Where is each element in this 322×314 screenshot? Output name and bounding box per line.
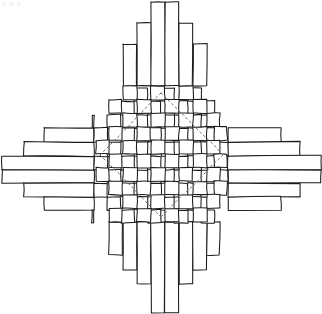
weave-cell-vertical-over: [151, 113, 165, 127]
weave-cell-vertical-over: [179, 86, 194, 100]
horizontal-strip-tail-left: [2, 170, 95, 184]
horizontal-strip-tail-left: [92, 115, 94, 128]
weave-cell-vertical-over: [165, 208, 179, 221]
weave-cell-vertical-over: [165, 127, 180, 141]
weave-cell-vertical-over: [151, 195, 165, 209]
weave-cell-vertical-over: [96, 140, 110, 154]
weave-cell-vertical-over: [123, 113, 138, 127]
horizontal-strip-tail-right: [228, 128, 281, 143]
horizontal-strip-tail-left: [44, 128, 94, 143]
weave-cell-vertical-over: [165, 181, 179, 195]
weave-cell-vertical-over: [151, 140, 165, 154]
weave-cell-vertical-over: [109, 126, 123, 140]
horizontal-strip-tail-right: [228, 155, 322, 170]
weave-cell-vertical-over: [137, 209, 152, 223]
weave-cell-vertical-over: [109, 181, 123, 195]
weave-cell-vertical-over: [207, 140, 220, 154]
vertical-strip-tail-bottom: [193, 222, 208, 271]
horizontal-strip-tail-left: [2, 156, 95, 170]
vertical-strip-tail-bottom: [109, 222, 123, 256]
weave-cell-vertical-over: [165, 154, 179, 168]
weave-cell-vertical-over: [165, 99, 180, 113]
horizontal-strip-tail-left: [92, 210, 94, 223]
vertical-strip-tail-bottom: [179, 222, 193, 285]
weave-cell-vertical-over: [179, 167, 193, 181]
vertical-strip-tail-top: [193, 44, 207, 87]
vertical-strip-tail-bottom: [137, 222, 151, 284]
weave-cell-vertical-over: [214, 126, 228, 141]
weave-cell-vertical-over: [137, 154, 151, 168]
weave-cell-vertical-over: [207, 113, 221, 127]
weave-cell-vertical-over: [123, 86, 137, 100]
horizontal-strip-tail-left: [24, 142, 95, 157]
weave-cell-vertical-over: [179, 140, 194, 154]
weave-cell-vertical-over: [193, 208, 207, 222]
weave-cell-vertical-over: [179, 195, 193, 209]
weave-cell-vertical-over: [123, 141, 137, 154]
vertical-strip-tail-bottom: [123, 222, 137, 270]
weave-cell-vertical-over: [193, 154, 207, 168]
horizontal-strip-tail-right: [228, 170, 322, 184]
weave-cell-horizontal-over: [94, 183, 107, 197]
weave-cell-vertical-over: [137, 99, 152, 113]
weave-cell-vertical-over: [179, 113, 194, 127]
weave-cell-vertical-over: [214, 154, 228, 168]
vertical-strip-tail-bottom: [207, 222, 220, 256]
horizontal-strip-tail-right: [228, 183, 301, 197]
weave-figure: [0, 0, 322, 314]
weave-cell-vertical-over: [109, 208, 122, 222]
weave-cell-vertical-over: [151, 86, 166, 101]
weave-cell-vertical-over: [137, 181, 151, 195]
weave-cell-vertical-over: [193, 99, 207, 113]
vertical-strip-tail-top: [151, 2, 165, 86]
weave-cell-vertical-over: [214, 181, 228, 195]
plaited-weave-diagram: [0, 0, 322, 314]
vertical-strip-tail-top: [123, 44, 137, 86]
horizontal-strip-tail-left: [44, 197, 95, 210]
vertical-strip-tail-top: [165, 2, 179, 86]
weave-cell-vertical-over: [137, 127, 151, 141]
weave-cell-vertical-over: [193, 126, 207, 140]
horizontal-strip-tail-right: [228, 196, 281, 210]
weave-cell-vertical-over: [123, 195, 138, 209]
weave-cell-vertical-over: [109, 99, 122, 113]
horizontal-strip-tail-right: [228, 141, 300, 156]
weave-cell-vertical-over: [207, 194, 220, 208]
horizontal-strip-tail-left: [24, 183, 95, 198]
vertical-strip-tail-top: [179, 23, 193, 87]
vertical-strip-tail-bottom: [151, 222, 165, 313]
vertical-strip-tail-bottom: [165, 222, 179, 313]
weave-cell-vertical-over: [151, 167, 166, 181]
weave-cell-vertical-over: [96, 167, 109, 181]
vertical-strip-tail-top: [137, 23, 152, 86]
